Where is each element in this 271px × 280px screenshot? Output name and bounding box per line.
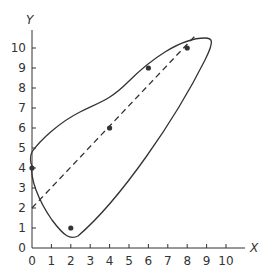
y-tick-label: 2	[18, 201, 26, 215]
enclosing-curve	[31, 38, 212, 237]
y-axis-label: Y	[26, 13, 35, 27]
x-tick-label: 7	[164, 254, 172, 268]
x-tick-label: 4	[106, 254, 114, 268]
y-tick-label: 7	[18, 101, 26, 115]
axes	[32, 30, 245, 248]
y-tick-label: 0	[18, 241, 26, 255]
data-point	[68, 225, 73, 230]
x-tick-label: 3	[86, 254, 94, 268]
data-point	[146, 65, 151, 70]
y-tick-label: 5	[18, 141, 26, 155]
y-tick-label: 4	[18, 161, 26, 175]
data-points	[29, 45, 189, 230]
y-tick-label: 3	[18, 181, 26, 195]
x-tick-label: 8	[183, 254, 191, 268]
y-tick-label: 8	[18, 81, 26, 95]
x-tick-label: 5	[125, 254, 133, 268]
data-point	[185, 45, 190, 50]
y-tick-label: 10	[11, 41, 26, 55]
x-tick-label: 2	[67, 254, 75, 268]
data-point	[107, 125, 112, 130]
scatter-chart: 012345678910 012345678910 X Y	[0, 0, 271, 280]
y-tick-label: 9	[18, 61, 26, 75]
x-tick-label: 1	[48, 254, 56, 268]
y-tick-label: 6	[18, 121, 26, 135]
x-tick-label: 10	[218, 254, 233, 268]
x-tick-label: 0	[28, 254, 36, 268]
dashed-fit-line	[32, 36, 195, 208]
data-point	[29, 165, 34, 170]
x-axis-label: X	[249, 241, 259, 255]
x-tick-label: 6	[145, 254, 153, 268]
x-tick-label: 9	[203, 254, 211, 268]
y-tick-label: 1	[18, 221, 26, 235]
